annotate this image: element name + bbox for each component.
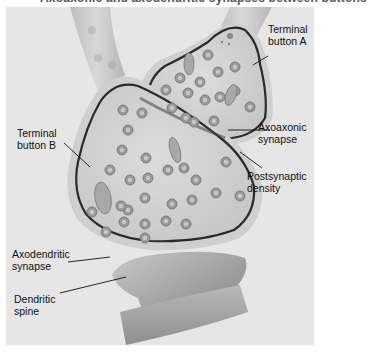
label-terminal-button-a: Terminal button A xyxy=(268,23,308,47)
label-dendritic-spine: Dendritic spine xyxy=(14,293,55,317)
label-axoaxonic-synapse: Axoaxonic synapse xyxy=(258,121,306,145)
label-terminal-button-b: Terminal button B xyxy=(17,127,57,151)
cropped-figure-caption: Axoaxonic and axodendritic synapses betw… xyxy=(40,0,367,5)
synapse-diagram-panel: Terminal button A Axoaxonic synapse Post… xyxy=(6,7,314,345)
label-axodendritic-synapse: Axodendritic synapse xyxy=(12,248,70,272)
label-postsynaptic-density: Postsynaptic density xyxy=(247,170,307,194)
